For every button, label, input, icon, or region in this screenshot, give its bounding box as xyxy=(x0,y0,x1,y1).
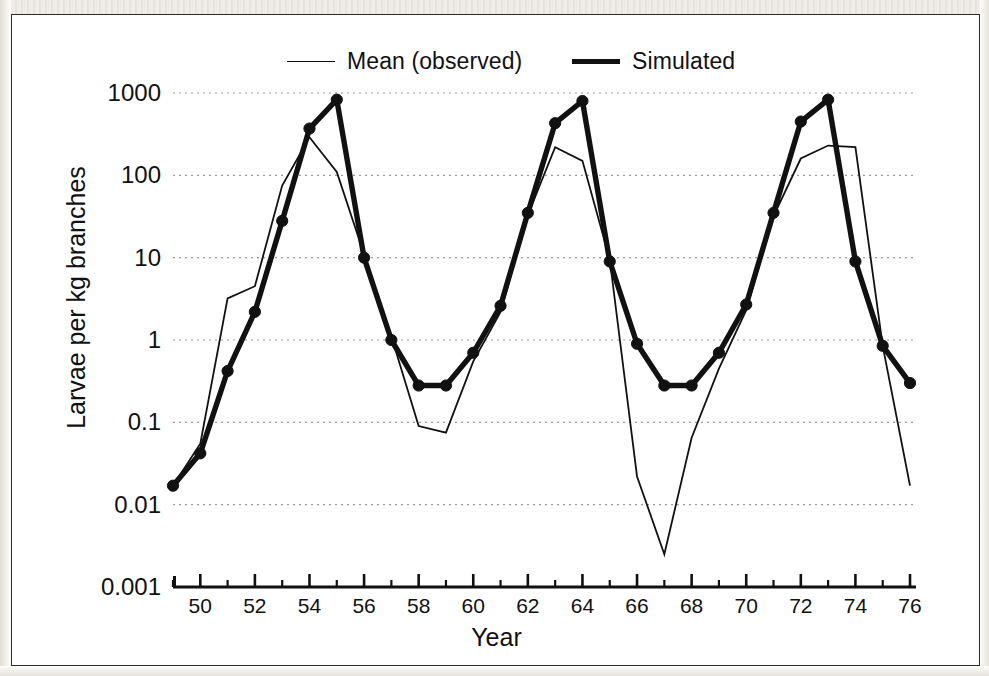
legend-item-simulated: Simulated xyxy=(572,48,735,75)
x-tick-label: 70 xyxy=(735,594,758,618)
polyline-simulated xyxy=(173,100,910,486)
x-tick-label: 50 xyxy=(189,594,212,618)
x-tick-label: 56 xyxy=(352,594,375,618)
data-point-marker xyxy=(386,334,397,345)
y-tick-label: 0.01 xyxy=(12,491,161,519)
data-point-marker xyxy=(823,94,834,105)
data-point-marker xyxy=(468,347,479,358)
scan-edge-bottom xyxy=(0,666,989,676)
x-axis-title: Year xyxy=(12,623,981,652)
data-point-marker xyxy=(304,123,315,134)
data-point-marker xyxy=(904,377,915,388)
data-point-marker xyxy=(768,207,779,218)
data-point-marker xyxy=(249,306,260,317)
y-tick-label: 0.001 xyxy=(12,573,161,601)
figure-page: Mean (observed) Simulated Larvae per kg … xyxy=(0,0,989,676)
data-point-marker xyxy=(222,365,233,376)
data-point-marker xyxy=(495,300,506,311)
data-point-marker xyxy=(795,116,806,127)
scan-edge-left xyxy=(0,0,11,676)
scan-edge-right xyxy=(980,0,989,676)
data-point-marker xyxy=(713,347,724,358)
x-tick-label: 62 xyxy=(516,594,539,618)
x-tick-label: 52 xyxy=(243,594,266,618)
x-tick-label: 68 xyxy=(680,594,703,618)
data-point-marker xyxy=(195,448,206,459)
x-tick-label: 64 xyxy=(571,594,594,618)
x-tick-label: 74 xyxy=(844,594,867,618)
data-point-marker xyxy=(850,256,861,267)
data-point-marker xyxy=(358,252,369,263)
x-tick-label: 60 xyxy=(462,594,485,618)
data-point-marker xyxy=(277,215,288,226)
scan-edge-top xyxy=(0,0,989,14)
data-point-marker xyxy=(550,118,561,129)
legend-label-simulated: Simulated xyxy=(632,48,735,75)
data-point-marker xyxy=(167,480,178,491)
y-tick-label: 10 xyxy=(12,244,161,272)
y-tick-label: 100 xyxy=(12,161,161,189)
x-tick-label: 66 xyxy=(625,594,648,618)
series-line-simulated xyxy=(173,100,910,486)
legend-label-mean-observed: Mean (observed) xyxy=(347,48,522,75)
y-tick-label: 1 xyxy=(12,326,161,354)
y-tick-label: 1000 xyxy=(12,79,161,107)
data-point-marker xyxy=(413,380,424,391)
line-swatch-thick-icon xyxy=(572,59,620,64)
data-point-marker xyxy=(631,338,642,349)
x-tick-label: 54 xyxy=(298,594,321,618)
polyline-mean-observed xyxy=(173,137,910,554)
x-tick-label: 76 xyxy=(898,594,921,618)
data-point-marker xyxy=(331,94,342,105)
data-point-marker xyxy=(659,380,670,391)
line-swatch-thin-icon xyxy=(287,61,335,62)
data-point-marker xyxy=(604,256,615,267)
data-point-marker xyxy=(440,380,451,391)
series-markers-simulated xyxy=(167,94,915,491)
data-point-marker xyxy=(877,340,888,351)
data-point-marker xyxy=(686,380,697,391)
series-line-mean-observed xyxy=(173,137,910,554)
data-point-marker xyxy=(522,207,533,218)
y-tick-label: 0.1 xyxy=(12,408,161,436)
data-point-marker xyxy=(577,95,588,106)
x-tick-label: 58 xyxy=(407,594,430,618)
x-tick-label: 72 xyxy=(789,594,812,618)
legend-item-mean-observed: Mean (observed) xyxy=(287,48,522,75)
figure-plate: Mean (observed) Simulated Larvae per kg … xyxy=(11,14,980,666)
data-point-marker xyxy=(741,299,752,310)
